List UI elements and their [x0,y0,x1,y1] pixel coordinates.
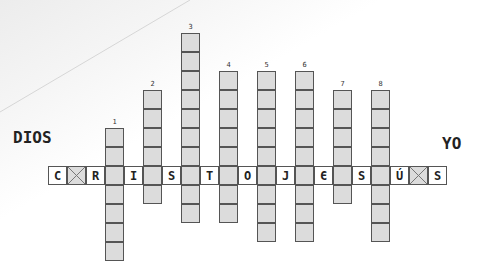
answer-cell-col8-intersection[interactable] [371,166,390,185]
answer-cell-col6[interactable] [295,204,314,223]
answer-cell-col5[interactable] [257,147,276,166]
answer-cell-col1[interactable] [105,128,124,147]
answer-cell-col5[interactable] [257,128,276,147]
answer-cell-col2[interactable] [143,147,162,166]
cell-letter: Ú [390,166,409,185]
column-number-7: 7 [333,80,352,88]
answer-cell-col1[interactable] [105,147,124,166]
answer-cell-col4[interactable] [219,204,238,223]
answer-cell-col6[interactable] [295,71,314,90]
answer-cell-col1[interactable] [105,242,124,261]
answer-cell-col6[interactable] [295,185,314,204]
answer-cell-col3[interactable] [181,147,200,166]
answer-cell-col6[interactable] [295,223,314,242]
cell-letter: T [200,166,219,185]
label-yo: YO [442,134,461,153]
answer-cell-col3[interactable] [181,90,200,109]
answer-cell-col3[interactable] [181,128,200,147]
answer-cell-col7[interactable] [333,109,352,128]
answer-cell-col4[interactable] [219,128,238,147]
cell-letter: S [352,166,371,185]
answer-cell-col5-intersection[interactable] [257,166,276,185]
answer-cell-col8[interactable] [371,204,390,223]
cross-icon [410,167,427,184]
label-dios: DIOS [13,128,52,147]
answer-cell-col3[interactable] [181,52,200,71]
answer-cell-col5[interactable] [257,109,276,128]
answer-cell-col3-intersection[interactable] [181,166,200,185]
answer-cell-col5[interactable] [257,71,276,90]
answer-cell-col2-intersection[interactable] [143,166,162,185]
answer-cell-col4-intersection[interactable] [219,166,238,185]
answer-cell-col2[interactable] [143,109,162,128]
answer-cell-col4[interactable] [219,71,238,90]
column-number-8: 8 [371,80,390,88]
answer-cell-col1[interactable] [105,204,124,223]
answer-cell-col2[interactable] [143,90,162,109]
column-number-5: 5 [257,61,276,69]
column-number-3: 3 [181,23,200,31]
cell-letter: R [86,166,105,185]
answer-cell-col8[interactable] [371,185,390,204]
crossed-cell [409,166,428,185]
cell-letter: O [238,166,257,185]
answer-cell-col4[interactable] [219,147,238,166]
cell-letter: Є [314,166,333,185]
answer-cell-col3[interactable] [181,204,200,223]
answer-cell-col1[interactable] [105,223,124,242]
answer-cell-col7-intersection[interactable] [333,166,352,185]
answer-cell-col5[interactable] [257,223,276,242]
answer-cell-col4[interactable] [219,90,238,109]
answer-cell-col6-intersection[interactable] [295,166,314,185]
answer-cell-col7[interactable] [333,147,352,166]
answer-cell-col5[interactable] [257,185,276,204]
cell-letter: C [48,166,67,185]
cell-letter: S [428,166,447,185]
cell-letter: I [124,166,143,185]
answer-cell-col6[interactable] [295,90,314,109]
answer-cell-col1-intersection[interactable] [105,166,124,185]
cell-letter: S [162,166,181,185]
column-number-4: 4 [219,61,238,69]
answer-cell-col3[interactable] [181,185,200,204]
diagonal-line [0,0,495,266]
answer-cell-col3[interactable] [181,109,200,128]
answer-cell-col3[interactable] [181,71,200,90]
answer-cell-col7[interactable] [333,128,352,147]
answer-cell-col5[interactable] [257,90,276,109]
answer-cell-col5[interactable] [257,204,276,223]
answer-cell-col7[interactable] [333,185,352,204]
answer-cell-col8[interactable] [371,109,390,128]
cell-letter: J [276,166,295,185]
answer-cell-col6[interactable] [295,147,314,166]
answer-cell-col8[interactable] [371,223,390,242]
answer-cell-col4[interactable] [219,185,238,204]
answer-cell-col8[interactable] [371,147,390,166]
answer-cell-col4[interactable] [219,109,238,128]
answer-cell-col1[interactable] [105,185,124,204]
answer-cell-col2[interactable] [143,128,162,147]
answer-cell-col7[interactable] [333,90,352,109]
answer-cell-col8[interactable] [371,128,390,147]
answer-cell-col3[interactable] [181,33,200,52]
crossed-cell [67,166,86,185]
answer-cell-col6[interactable] [295,128,314,147]
column-number-1: 1 [105,118,124,126]
answer-cell-col2[interactable] [143,185,162,204]
answer-cell-col8[interactable] [371,90,390,109]
answer-cell-col6[interactable] [295,109,314,128]
column-number-6: 6 [295,61,314,69]
cross-icon [68,167,85,184]
column-number-2: 2 [143,80,162,88]
